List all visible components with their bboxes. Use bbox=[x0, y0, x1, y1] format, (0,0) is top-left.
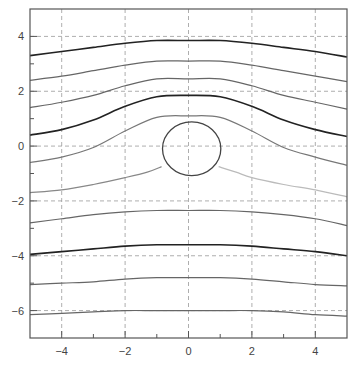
streamline-6-right bbox=[219, 167, 347, 197]
axis-ticks bbox=[30, 36, 315, 338]
x-tick-label: 0 bbox=[185, 345, 191, 357]
x-axis-tick-labels: −4−2024 bbox=[55, 345, 318, 357]
y-tick-label: −2 bbox=[11, 195, 24, 207]
y-tick-label: −4 bbox=[11, 250, 24, 262]
y-tick-label: 0 bbox=[18, 140, 24, 152]
x-tick-label: −2 bbox=[119, 345, 132, 357]
cylinder-circle bbox=[163, 122, 221, 176]
y-tick-label: 4 bbox=[18, 30, 24, 42]
x-tick-label: 4 bbox=[312, 345, 318, 357]
x-tick-label: 2 bbox=[249, 345, 255, 357]
cylinder-outline bbox=[163, 122, 221, 176]
streamline-6-left bbox=[30, 167, 162, 193]
x-tick-label: −4 bbox=[55, 345, 68, 357]
y-axis-tick-labels: 420−2−4−6 bbox=[11, 30, 24, 316]
y-tick-label: 2 bbox=[18, 85, 24, 97]
streamline-chart: −4−2024 420−2−4−6 bbox=[0, 0, 360, 365]
y-tick-label: −6 bbox=[11, 305, 24, 317]
grid-lines bbox=[30, 9, 347, 338]
